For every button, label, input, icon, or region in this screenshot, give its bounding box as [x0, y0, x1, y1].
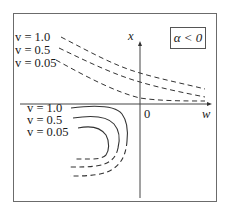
condition-label-box: α < 0: [170, 27, 206, 49]
lower-solid-curves: [71, 106, 127, 155]
upper-legend-v005: v = 0.05: [15, 57, 56, 70]
lower-curve-v05-solid: [73, 116, 119, 148]
lower-legend-v005: v = 0.05: [27, 126, 68, 139]
x-axis-arrow-icon: [138, 41, 142, 46]
upper-curve-v05: [59, 48, 205, 97]
lower-curve-v005-solid: [78, 127, 109, 155]
lower-curve-v05-dashed: [70, 148, 118, 167]
w-axis-label: w: [202, 108, 210, 121]
lower-curve-v005-dashed: [74, 155, 106, 159]
upper-curve-v005: [56, 60, 205, 101]
origin-label: 0: [144, 108, 150, 121]
x-axis-label: x: [128, 30, 134, 43]
w-axis-arrow-icon: [207, 102, 212, 106]
